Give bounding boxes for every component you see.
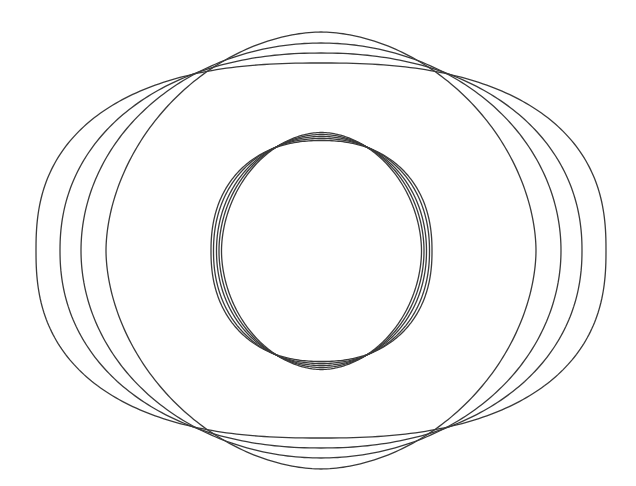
inner-curve-1: [211, 141, 432, 362]
outer-curve-family: [36, 32, 606, 469]
outer-curve-3: [81, 43, 561, 458]
outer-curve-1: [36, 63, 606, 438]
outer-curve-4: [106, 32, 536, 469]
outer-curve-2: [60, 53, 582, 448]
inner-curve-5: [222, 133, 422, 370]
inner-curve-4: [219, 135, 424, 368]
inner-curve-family: [211, 133, 432, 370]
curve-family-diagram: [0, 0, 636, 486]
